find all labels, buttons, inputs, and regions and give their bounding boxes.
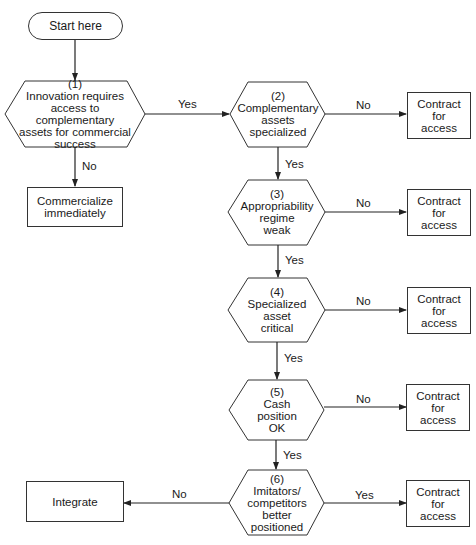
decision-6: (6) Imitators/ competitors better positi… (236, 472, 318, 534)
edge-label-d6-no: No (172, 488, 187, 500)
edge-label-d1-yes: Yes (178, 98, 197, 110)
contract-label-5: Contract for access (416, 486, 459, 522)
decision-1-number: (1) (68, 78, 82, 90)
outcome-integrate: Integrate (26, 481, 124, 522)
outcome-contract-for-access-2: Contract for access (407, 189, 471, 236)
commercialize-label: Commercialize immediately (37, 195, 113, 219)
edge-label-d2-yes: Yes (285, 158, 304, 170)
decision-3-number: (3) (270, 188, 284, 200)
edge-label-d3-no: No (356, 197, 371, 209)
decision-6-text: Imitators/ competitors better positioned (247, 485, 306, 533)
contract-label-3: Contract for access (417, 293, 460, 329)
contract-label-1: Contract for access (417, 98, 460, 134)
decision-5-text: Cash position OK (257, 398, 297, 434)
edge-label-d6-yes: Yes (355, 489, 374, 501)
decision-5-number: (5) (270, 386, 284, 398)
decision-3: (3) Appropriability regime weak (234, 186, 320, 238)
outcome-contract-for-access-5: Contract for access (406, 480, 470, 527)
decision-1-text: Innovation requires access to complement… (15, 90, 135, 150)
start-terminal: Start here (28, 12, 123, 40)
decision-3-text: Appropriability regime weak (241, 200, 314, 236)
contract-label-4: Contract for access (416, 390, 459, 426)
decision-1: (1) Innovation requires access to comple… (15, 84, 135, 144)
edge-label-d1-no: No (82, 160, 97, 172)
contract-label-2: Contract for access (417, 195, 460, 231)
decision-2-number: (2) (271, 90, 285, 102)
decision-4-number: (4) (270, 286, 284, 298)
outcome-commercialize-immediately: Commercialize immediately (27, 187, 123, 227)
outcome-contract-for-access-3: Contract for access (407, 287, 471, 334)
decision-4: (4) Specialized asset critical (234, 284, 320, 336)
edge-label-d2-no: No (356, 99, 371, 111)
edge-label-d5-no: No (356, 393, 371, 405)
decision-5: (5) Cash position OK (236, 384, 318, 436)
edge-label-d3-yes: Yes (285, 254, 304, 266)
edge-label-d4-no: No (356, 295, 371, 307)
start-label: Start here (49, 20, 102, 32)
decision-4-text: Specialized asset critical (248, 298, 307, 334)
outcome-contract-for-access-1: Contract for access (407, 92, 471, 139)
edge-label-d4-yes: Yes (284, 352, 303, 364)
edge-label-d5-yes: Yes (283, 449, 302, 461)
decision-6-number: (6) (270, 473, 284, 485)
decision-2: (2) Complementary assets specialized (236, 88, 320, 140)
decision-2-text: Complementary assets specialized (237, 102, 318, 138)
integrate-label: Integrate (52, 496, 97, 508)
outcome-contract-for-access-4: Contract for access (406, 384, 470, 431)
